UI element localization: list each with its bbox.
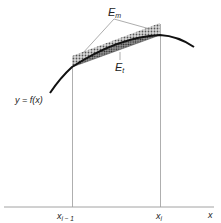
tick-label-x-i: xi [155,211,163,222]
x-axis-label: x [207,210,213,220]
em-leader-right [114,19,150,29]
label-et: Et [115,61,125,74]
tick-label-x-i-minus-1: xi − 1 [56,211,74,222]
label-curve: y = f(x) [14,95,43,105]
error-diagram: Em Et y = f(x) xi − 1 xi x [0,0,221,223]
label-em: Em [108,6,121,19]
